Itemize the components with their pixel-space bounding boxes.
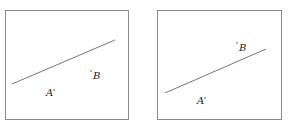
diagram-canvas: A B A B xyxy=(0,0,288,126)
panel-right: A B xyxy=(158,11,282,120)
point-a-label-right: A xyxy=(196,95,204,106)
panel-left: A B xyxy=(6,11,129,120)
point-a-dot-left xyxy=(53,89,54,90)
point-b-label-right: B xyxy=(238,42,246,53)
frame-left xyxy=(6,11,129,120)
line-right xyxy=(165,49,266,93)
point-a-dot-right xyxy=(204,97,205,98)
point-a-label-left: A xyxy=(45,87,53,98)
point-b-label-left: B xyxy=(92,70,100,81)
point-b-dot-right xyxy=(236,42,237,43)
point-b-dot-left xyxy=(90,70,91,71)
frame-right xyxy=(158,11,282,120)
